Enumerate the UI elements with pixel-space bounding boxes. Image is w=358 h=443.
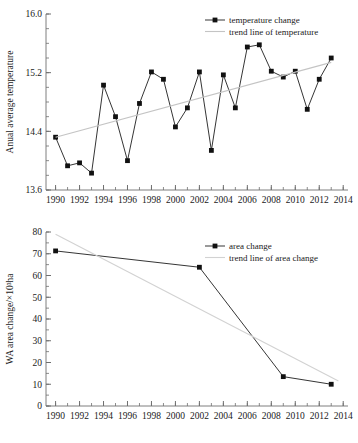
x-tick-label: 2004 bbox=[214, 411, 233, 421]
data-point-marker bbox=[149, 70, 154, 75]
x-tick-label: 2010 bbox=[286, 195, 305, 205]
y-tick-label: 40 bbox=[33, 314, 43, 324]
data-point-marker bbox=[137, 101, 142, 106]
data-point-marker bbox=[197, 265, 202, 270]
x-tick-label: 2012 bbox=[310, 195, 329, 205]
data-point-marker bbox=[269, 69, 274, 74]
legend-label: temperature change bbox=[229, 15, 300, 25]
data-line bbox=[56, 251, 332, 384]
data-point-marker bbox=[281, 374, 286, 379]
x-tick-label: 2002 bbox=[190, 195, 209, 205]
legend-swatch-marker bbox=[213, 244, 218, 249]
data-point-marker bbox=[209, 148, 214, 153]
x-tick-label: 2002 bbox=[190, 411, 209, 421]
legend-label: trend line of temperature bbox=[229, 27, 318, 37]
y-axis-title: Anual average temperature bbox=[5, 51, 15, 154]
y-tick-label: 60 bbox=[33, 271, 43, 281]
data-point-marker bbox=[329, 382, 334, 387]
area-change-chart-svg: 0102030405060708019901992199419961998200… bbox=[0, 218, 358, 443]
y-tick-label: 80 bbox=[33, 227, 43, 237]
y-tick-label: 13.6 bbox=[25, 185, 42, 195]
x-tick-label: 1998 bbox=[142, 195, 161, 205]
temperature-chart-svg: 13.614.415.216.0199019921994199619982000… bbox=[0, 0, 358, 218]
x-tick-label: 1992 bbox=[70, 195, 89, 205]
data-point-marker bbox=[53, 249, 58, 254]
y-tick-label: 20 bbox=[33, 358, 43, 368]
x-tick-label: 1994 bbox=[94, 195, 113, 205]
y-tick-label: 0 bbox=[37, 401, 42, 411]
x-tick-label: 2014 bbox=[334, 195, 353, 205]
annual-average-temperature-figure: 13.614.415.216.0199019921994199619982000… bbox=[0, 0, 358, 218]
x-tick-label: 1994 bbox=[94, 411, 113, 421]
data-point-marker bbox=[101, 83, 106, 88]
data-point-marker bbox=[221, 72, 226, 77]
data-point-marker bbox=[257, 42, 262, 47]
data-point-marker bbox=[305, 107, 310, 112]
y-tick-label: 30 bbox=[33, 336, 43, 346]
x-tick-label: 2008 bbox=[262, 411, 281, 421]
trend-line bbox=[56, 62, 332, 137]
x-tick-label: 2008 bbox=[262, 195, 281, 205]
y-tick-label: 14.4 bbox=[25, 127, 42, 137]
legend-label: area change bbox=[229, 241, 272, 251]
legend-label: trend line of area change bbox=[229, 253, 318, 263]
data-point-marker bbox=[245, 45, 250, 50]
data-point-marker bbox=[317, 77, 322, 82]
x-tick-label: 2006 bbox=[238, 195, 257, 205]
x-tick-label: 1996 bbox=[118, 411, 137, 421]
x-tick-label: 1990 bbox=[46, 195, 65, 205]
x-tick-label: 1996 bbox=[118, 195, 137, 205]
x-tick-label: 1998 bbox=[142, 411, 161, 421]
x-tick-label: 2006 bbox=[238, 411, 257, 421]
data-point-marker bbox=[233, 105, 238, 110]
data-point-marker bbox=[197, 70, 202, 75]
x-tick-label: 1990 bbox=[46, 411, 65, 421]
x-tick-label: 2014 bbox=[334, 411, 353, 421]
data-point-marker bbox=[329, 56, 334, 61]
data-point-marker bbox=[113, 114, 118, 119]
x-tick-label: 2012 bbox=[310, 411, 329, 421]
y-tick-label: 10 bbox=[33, 380, 43, 390]
y-tick-label: 15.2 bbox=[25, 68, 42, 78]
wa-area-change-figure: 0102030405060708019901992199419961998200… bbox=[0, 218, 358, 443]
y-tick-label: 50 bbox=[33, 293, 43, 303]
legend-swatch-marker bbox=[213, 18, 218, 23]
x-tick-label: 1992 bbox=[70, 411, 89, 421]
y-axis-title: WA area change/×10³ha bbox=[5, 273, 15, 365]
data-line bbox=[56, 45, 332, 173]
x-tick-label: 2000 bbox=[166, 195, 185, 205]
y-tick-label: 16.0 bbox=[25, 9, 42, 19]
data-point-marker bbox=[173, 125, 178, 130]
data-point-marker bbox=[125, 158, 130, 163]
data-point-marker bbox=[185, 105, 190, 110]
x-tick-label: 2004 bbox=[214, 195, 233, 205]
x-tick-label: 2000 bbox=[166, 411, 185, 421]
x-tick-label: 2010 bbox=[286, 411, 305, 421]
data-point-marker bbox=[161, 77, 166, 82]
data-point-marker bbox=[77, 160, 82, 165]
data-point-marker bbox=[65, 163, 70, 168]
y-tick-label: 70 bbox=[33, 249, 43, 259]
data-point-marker bbox=[89, 171, 94, 176]
